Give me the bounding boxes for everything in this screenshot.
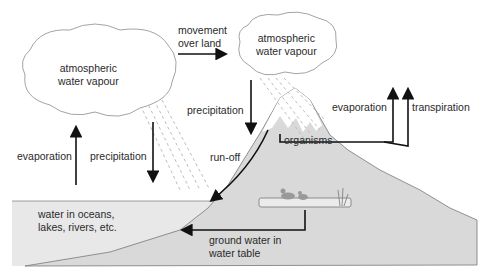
cloud-line1: atmospheric — [58, 62, 119, 75]
transpiration-label: transpiration — [412, 101, 470, 114]
runoff-label: run-off — [210, 151, 240, 164]
transp-arrow — [384, 90, 408, 146]
ground-line1: ground water in — [209, 234, 281, 247]
land-cloud-label: atmospheric water vapour — [256, 32, 317, 57]
movement-line2: over land — [178, 37, 227, 50]
precipitation-ocean-label: precipitation — [90, 150, 147, 163]
cloud-line2: water vapour — [58, 75, 119, 88]
ocean-cloud-label: atmospheric water vapour — [58, 62, 119, 87]
water-line1: water in oceans, — [38, 208, 117, 221]
evaporation-ocean-label: evaporation — [17, 150, 72, 163]
cloud-line1: atmospheric — [256, 32, 317, 45]
duck-icon — [281, 193, 295, 200]
movement-line1: movement — [178, 24, 227, 37]
organisms-label: organisms — [284, 134, 332, 147]
water-label: water in oceans, lakes, rivers, etc. — [38, 208, 117, 233]
cloud-line2: water vapour — [256, 45, 317, 58]
water-line2: lakes, rivers, etc. — [38, 221, 117, 234]
ground-line2: water table — [209, 247, 281, 260]
evaporation-land-label: evaporation — [332, 101, 387, 114]
groundwater-label: ground water in water table — [209, 234, 281, 259]
precipitation-land-label: precipitation — [187, 104, 244, 117]
movement-label: movement over land — [178, 24, 227, 49]
